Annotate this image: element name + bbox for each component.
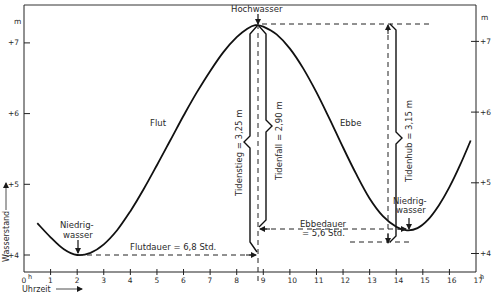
x-tick-label: 4 bbox=[128, 276, 133, 285]
y-axis-label: Wasserstand bbox=[2, 211, 11, 262]
ebb-label: Ebbe bbox=[340, 118, 361, 128]
x-tick-label: 8 bbox=[234, 276, 239, 285]
tidal-fall-label: Tidenfall = 2,90 m bbox=[274, 101, 284, 181]
high-water-label: Hochwasser bbox=[231, 4, 283, 14]
x-tick-label: 2 bbox=[75, 276, 80, 285]
ebb-duration-label-line2: = 5,6 Std. bbox=[302, 228, 345, 238]
x-tick-label: 1 bbox=[48, 276, 53, 285]
tidal-range-label: Tidenhub = 3,15 m bbox=[404, 100, 414, 183]
x-hour-suffix: h bbox=[28, 273, 32, 281]
x-tick-label: 15 bbox=[420, 276, 430, 285]
y-unit-right: m bbox=[481, 13, 488, 22]
x-hour-suffix: h bbox=[480, 273, 484, 281]
x-tick-label: 6 bbox=[181, 276, 186, 285]
y-unit-left: m bbox=[14, 17, 21, 26]
x-axis-title: Uhrzeit bbox=[22, 285, 82, 294]
x-tick-label: 9 bbox=[261, 276, 266, 285]
y-tick-label-right: +4 bbox=[480, 249, 491, 258]
y-tick-label-left: +6 bbox=[8, 109, 19, 118]
low-water-left-label-line1: Niedrig- bbox=[60, 220, 94, 230]
y-tick-label-left: +5 bbox=[8, 180, 19, 189]
x-tick-label: 13 bbox=[367, 276, 377, 285]
x-tick-label: 11 bbox=[314, 276, 324, 285]
y-tick-label-right: +6 bbox=[480, 108, 491, 117]
low-water-right-label-line2: wasser bbox=[396, 205, 426, 215]
tidal-rise-brace bbox=[244, 26, 257, 252]
flood-label: Flut bbox=[150, 118, 167, 128]
x-tick-label: 12 bbox=[341, 276, 351, 285]
x-tick-label: 14 bbox=[394, 276, 404, 285]
x-tick-label: 10 bbox=[287, 276, 297, 285]
y-tick-label-left: +7 bbox=[8, 38, 19, 47]
y-tick-label-right: +5 bbox=[480, 178, 491, 187]
y-tick-label-right: +7 bbox=[480, 37, 491, 46]
x-tick-label: 7 bbox=[208, 276, 213, 285]
low-water-left-label-line2: wasser bbox=[63, 230, 93, 240]
x-tick-label: 5 bbox=[154, 276, 159, 285]
flood-duration-label: Flutdauer = 6,8 Std. bbox=[130, 242, 216, 252]
y-axis-title: Wasserstand bbox=[2, 183, 11, 262]
x-tick-label: 16 bbox=[447, 276, 457, 285]
x-axis-label: Uhrzeit bbox=[22, 285, 51, 294]
tidal-fall-brace bbox=[259, 26, 272, 227]
tidal-rise-label: Tidenstieg = 3,25 m bbox=[234, 110, 244, 198]
x-tick-label: 3 bbox=[101, 276, 106, 285]
x-tick-label: 0 bbox=[22, 276, 27, 285]
tide-diagram: 0h1234567891011121314151617h +4+4+5+5+6+… bbox=[0, 0, 494, 296]
